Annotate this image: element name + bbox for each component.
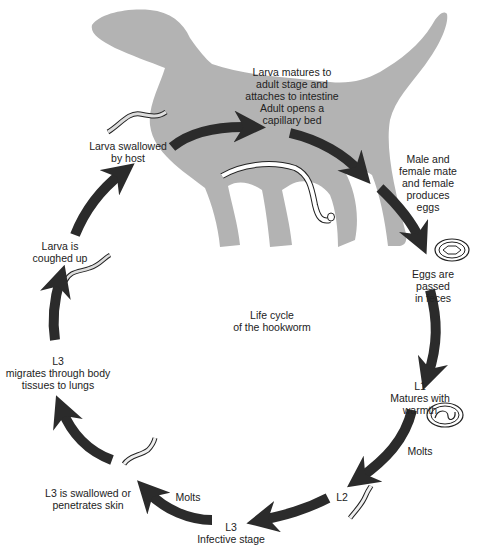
stage-molts-2: Molts — [175, 491, 200, 503]
larva-icon — [124, 438, 155, 464]
arrow-migrates-to-coughed — [54, 280, 60, 340]
arrow-l2-to-l3 — [262, 498, 328, 520]
stage-l1: L1 Matures with warmth — [384, 380, 456, 416]
stage-l2: L2 — [336, 491, 348, 503]
diagram-title: Life cycle of the hookworm — [233, 309, 311, 333]
stage-larva-matures: Larva matures to adult stage and attache… — [245, 66, 338, 126]
dog-silhouette-icon — [92, 10, 448, 247]
egg-icon — [435, 239, 469, 261]
stage-molts-1: Molts — [407, 445, 432, 457]
arrow-coughed-to-swallowed — [75, 173, 122, 235]
stage-larva-coughed: Larva is coughed up — [33, 240, 88, 264]
stage-l3-infective: L3 Infective stage — [197, 521, 265, 545]
arrow-l1-to-l2 — [360, 410, 412, 478]
stage-l3-swallowed: L3 is swallowed or penetrates skin — [45, 487, 131, 511]
arrow-swallowed-to-migrates — [62, 410, 112, 460]
stage-larva-swallowed: Larva swallowed by host — [89, 140, 167, 164]
stage-eggs-passed: Eggs are passed in feces — [404, 268, 463, 304]
larva-icon — [350, 486, 371, 518]
stage-mate-eggs: Male and female mate and female produces… — [396, 153, 460, 213]
stage-l3-migrates: L3 migrates through body tissues to lung… — [6, 355, 110, 391]
